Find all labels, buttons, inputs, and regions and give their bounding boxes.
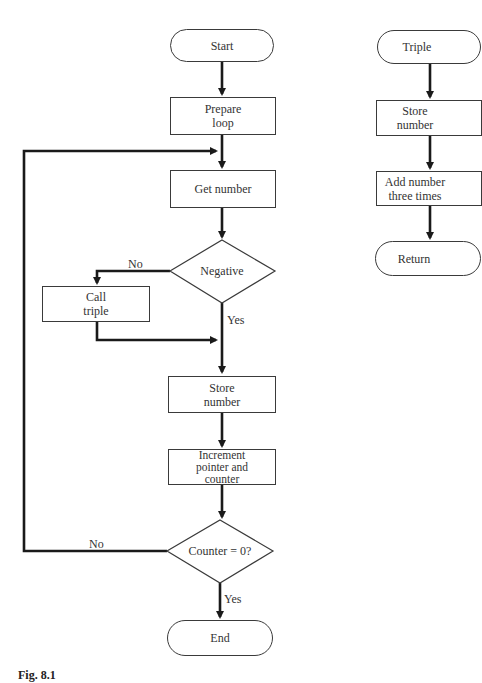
counter-yes-label: Yes (224, 592, 241, 606)
return-terminal: Return (375, 241, 481, 276)
figure-caption: Fig. 8.1 (18, 668, 56, 683)
end-label: End (210, 631, 229, 645)
call-triple-box: Call triple (42, 286, 150, 322)
loop-back-connector (24, 151, 216, 551)
arrow-call-triple-return (97, 322, 216, 340)
add-number-label: Add number three times (385, 175, 445, 203)
end-terminal: End (167, 620, 273, 656)
sub-store-number-box: Store number (376, 100, 482, 136)
negative-no-label: No (128, 257, 143, 271)
negative-yes-label: Yes (227, 313, 244, 327)
negative-decision-label: Negative (180, 264, 264, 278)
triple-terminal: Triple (377, 30, 481, 64)
call-triple-label: Call triple (83, 290, 108, 318)
prepare-loop-label: Prepare loop (205, 102, 242, 130)
sub-store-number-label: Store number (397, 104, 434, 132)
counter-decision-label: Counter = 0? (172, 544, 268, 558)
triple-label: Triple (403, 40, 432, 54)
return-label: Return (398, 252, 431, 266)
prepare-loop-box: Prepare loop (170, 97, 276, 135)
get-number-label: Get number (195, 182, 252, 196)
counter-no-label: No (89, 537, 104, 551)
get-number-box: Get number (170, 170, 276, 208)
increment-box: Increment pointer and counter (168, 449, 276, 485)
increment-label: Increment pointer and counter (196, 449, 248, 485)
arrow-negative-no (97, 271, 170, 283)
add-number-box: Add number three times (376, 171, 482, 206)
start-label: Start (211, 39, 234, 53)
start-terminal: Start (170, 29, 274, 62)
store-number-label: Store number (204, 381, 241, 409)
store-number-box: Store number (168, 376, 276, 413)
